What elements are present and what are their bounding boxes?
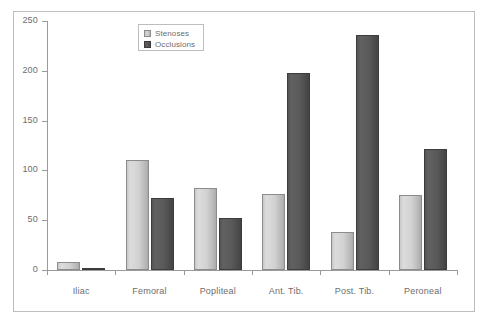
bar-stenoses	[126, 160, 149, 270]
x-tick-label: Ant. Tib.	[252, 286, 320, 296]
legend-swatch-stenoses-icon	[144, 30, 151, 37]
plot-area: 050100150200250 IliacFemoralPoplitealAnt…	[0, 0, 489, 330]
legend-item-stenoses: Stenoses	[144, 28, 189, 39]
bar-occlusions	[82, 268, 105, 270]
x-tick-mark	[457, 270, 458, 275]
x-tick-mark	[320, 270, 321, 275]
bar-stenoses	[262, 194, 285, 270]
bars-layer	[0, 0, 489, 270]
bar-stenoses	[57, 262, 80, 270]
legend-swatch-occlusions-icon	[144, 41, 151, 48]
legend-item-occlusions: Occlusions	[144, 39, 195, 50]
legend-label-occlusions: Occlusions	[155, 40, 195, 49]
x-tick-mark	[47, 270, 48, 275]
bar-stenoses	[331, 232, 354, 270]
bar-occlusions	[424, 149, 447, 271]
bar-occlusions	[356, 35, 379, 270]
bar-stenoses	[399, 195, 422, 270]
x-tick-label: Femoral	[115, 286, 183, 296]
chart-legend: Stenoses Occlusions	[138, 24, 204, 51]
x-tick-label: Peroneal	[389, 286, 457, 296]
bar-stenoses	[194, 188, 217, 270]
legend-label-stenoses: Stenoses	[155, 29, 189, 38]
x-tick-mark	[252, 270, 253, 275]
bar-occlusions	[287, 73, 310, 270]
bar-occlusions	[151, 198, 174, 270]
x-tick-mark	[184, 270, 185, 275]
x-tick-mark	[115, 270, 116, 275]
x-tick-label: Post. Tib.	[320, 286, 388, 296]
bar-chart-figure: 050100150200250 IliacFemoralPoplitealAnt…	[0, 0, 489, 330]
x-tick-label: Iliac	[47, 286, 115, 296]
bar-occlusions	[219, 218, 242, 270]
x-tick-label: Popliteal	[184, 286, 252, 296]
x-tick-mark	[389, 270, 390, 275]
